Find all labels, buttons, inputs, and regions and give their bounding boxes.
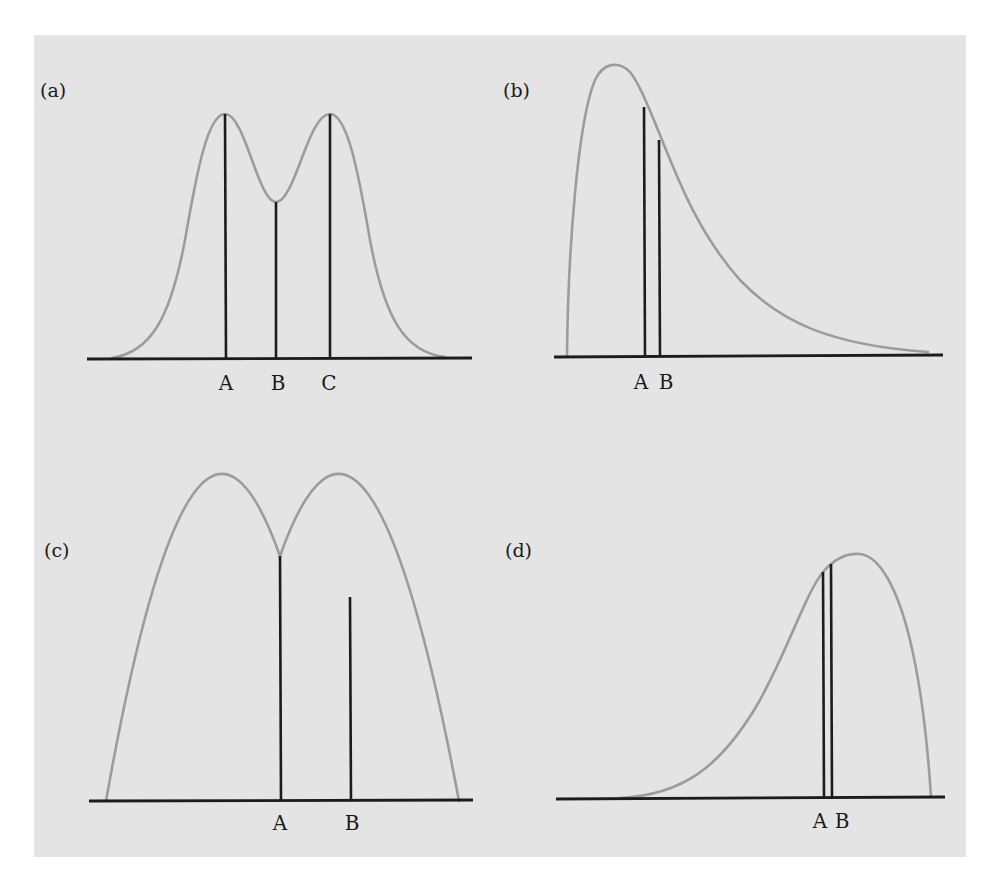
x-axis <box>87 358 472 359</box>
marker-label-a: A <box>812 809 828 833</box>
marker-line-b <box>350 597 351 801</box>
panel-label: (b) <box>503 79 530 101</box>
marker-label-b: B <box>659 370 674 394</box>
marker-label-a: A <box>633 370 649 394</box>
marker-line-a <box>644 107 645 357</box>
marker-label-b: B <box>271 371 286 395</box>
marker-line-a <box>225 114 226 359</box>
panel-label: (a) <box>40 79 66 101</box>
figure-background <box>34 35 966 857</box>
marker-label-b: B <box>835 809 850 833</box>
marker-line-a <box>823 572 824 799</box>
distribution-figure: (a) A B C (b) A B (c) A B (d) A B <box>0 0 996 885</box>
marker-line-b <box>831 564 832 799</box>
marker-label-b: B <box>345 811 360 835</box>
panel-label: (d) <box>505 539 532 561</box>
marker-line-a <box>280 556 281 801</box>
marker-label-c: C <box>321 371 336 395</box>
marker-line-b <box>659 140 660 357</box>
panel-label: (c) <box>44 539 69 561</box>
x-axis <box>554 355 943 357</box>
marker-label-a: A <box>272 811 288 835</box>
marker-label-a: A <box>218 371 234 395</box>
